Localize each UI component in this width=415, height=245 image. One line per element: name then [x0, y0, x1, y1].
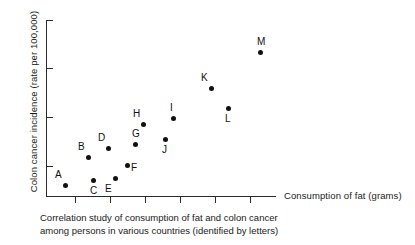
data-point-marker-c [91, 178, 96, 183]
data-point-marker-h [141, 122, 146, 127]
data-point-marker-k [209, 86, 214, 91]
y-axis-title: Colon cancer incidence (rate per 100,000… [28, 7, 39, 197]
data-point-label-j: J [162, 145, 167, 155]
data-point-marker-a [63, 183, 68, 188]
data-point-label-m: M [257, 37, 265, 47]
data-point-marker-f [125, 163, 130, 168]
y-axis-tick-2 [47, 117, 53, 118]
data-point-marker-d [106, 146, 111, 151]
figure-caption: Correlation study of consumption of fat … [40, 212, 370, 237]
data-point-label-h: H [133, 109, 140, 119]
data-point-marker-l [226, 106, 231, 111]
caption-line-1: Correlation study of consumption of fat … [40, 212, 370, 225]
data-point-label-d: D [98, 133, 105, 143]
data-point-marker-j [163, 137, 168, 142]
data-point-label-g: G [132, 129, 140, 139]
x-axis-tick-4 [215, 197, 216, 203]
data-point-label-b: B [78, 142, 85, 152]
x-axis-tick-2 [145, 197, 146, 203]
data-point-label-c: C [90, 186, 97, 196]
x-axis-tick-0 [75, 197, 76, 203]
data-point-marker-e [113, 176, 118, 181]
y-axis-line [46, 20, 47, 197]
data-point-label-a: A [55, 170, 62, 180]
data-point-label-e: E [105, 184, 112, 194]
x-axis-tick-5 [250, 197, 251, 203]
data-point-marker-g [133, 142, 138, 147]
data-point-label-i: I [170, 103, 173, 113]
plot-area: Colon cancer incidence (rate per 100,000… [0, 0, 415, 205]
data-point-marker-m [258, 50, 263, 55]
data-point-label-l: L [225, 114, 231, 124]
x-axis-title: Consumption of fat (grams) [284, 190, 402, 201]
data-point-label-k: K [201, 73, 208, 83]
data-point-marker-b [86, 155, 91, 160]
y-axis-tick-3 [47, 166, 53, 167]
data-point-label-f: F [131, 163, 137, 173]
x-axis-tick-3 [180, 197, 181, 203]
scatter-plot-figure: Colon cancer incidence (rate per 100,000… [0, 0, 415, 245]
x-axis-tick-1 [110, 197, 111, 203]
data-point-marker-i [171, 116, 176, 121]
x-axis-line [46, 196, 276, 197]
y-axis-tick-1 [47, 68, 53, 69]
y-axis-tick-0 [47, 20, 53, 21]
caption-line-2: among persons in various countries (iden… [40, 225, 370, 238]
